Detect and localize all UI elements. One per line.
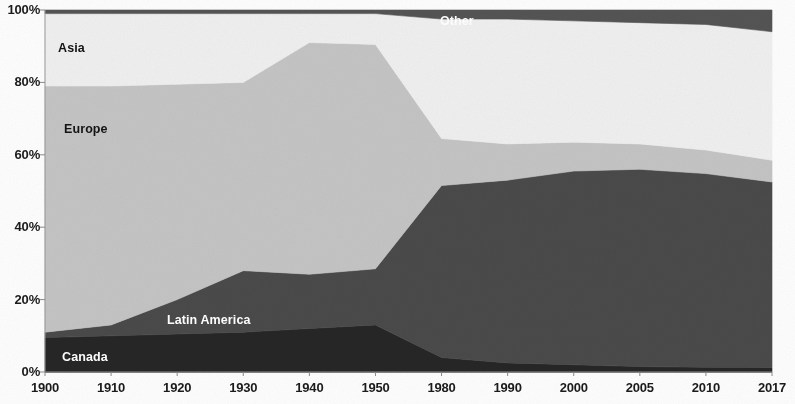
area-label-canada: Canada — [62, 350, 108, 364]
y-axis-label-0%: 0% — [0, 364, 40, 379]
area-label-europe: Europe — [64, 122, 108, 136]
chart-plot-svg — [0, 0, 795, 404]
x-axis-label-1900: 1900 — [21, 380, 69, 395]
y-axis-label-80%: 80% — [0, 74, 40, 89]
x-axis-label-2010: 2010 — [682, 380, 730, 395]
area-label-latin-america: Latin America — [167, 313, 251, 327]
x-axis-label-1940: 1940 — [285, 380, 333, 395]
x-axis-label-1910: 1910 — [87, 380, 135, 395]
y-axis-label-40%: 40% — [0, 219, 40, 234]
area-label-other: Other — [440, 14, 474, 28]
x-axis-label-1980: 1980 — [418, 380, 466, 395]
x-axis-label-1930: 1930 — [219, 380, 267, 395]
stacked-area-chart: 0%20%40%60%80%100% 190019101920193019401… — [0, 0, 795, 404]
y-axis-label-60%: 60% — [0, 147, 40, 162]
x-axis-label-2000: 2000 — [550, 380, 598, 395]
area-label-asia: Asia — [58, 41, 85, 55]
x-axis-label-1990: 1990 — [484, 380, 532, 395]
y-axis-label-100%: 100% — [0, 2, 40, 17]
x-axis-label-1920: 1920 — [153, 380, 201, 395]
area-series-group — [45, 10, 772, 372]
x-axis-label-1950: 1950 — [351, 380, 399, 395]
y-axis-label-20%: 20% — [0, 292, 40, 307]
x-axis-label-2005: 2005 — [616, 380, 664, 395]
x-axis-label-2017: 2017 — [748, 380, 795, 395]
